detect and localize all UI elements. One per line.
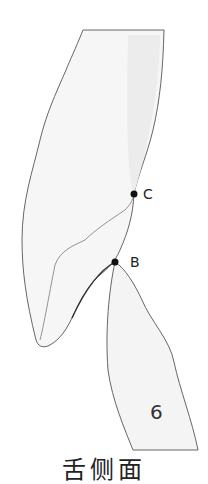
point-b-label: B <box>130 255 140 269</box>
point-c-label: C <box>143 187 153 201</box>
point-b <box>112 259 119 266</box>
point-c <box>131 191 138 198</box>
diagram-caption: 舌侧面 <box>0 458 208 482</box>
tooth-number: 6 <box>150 402 163 422</box>
